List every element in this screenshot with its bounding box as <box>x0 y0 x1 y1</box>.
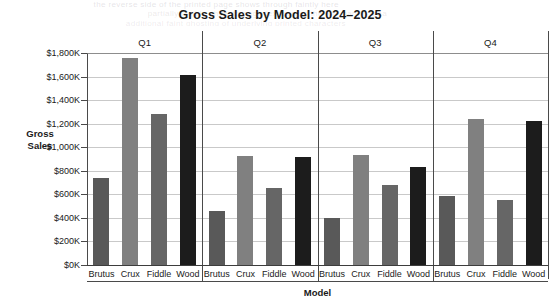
x-tick-label-wood: Wood <box>289 266 318 281</box>
x-tick-label-crux: Crux <box>116 266 145 281</box>
quarter-header-q2: Q2 <box>202 31 317 53</box>
y-tick-label: $1,400K <box>0 96 80 105</box>
y-tick-label: $600K <box>0 190 80 199</box>
bar-q2-brutus[interactable] <box>209 211 225 265</box>
y-tick-label: $400K <box>0 213 80 222</box>
bar-chart: Gross Sales by Model: 2024–2025 Gross Sa… <box>0 0 560 304</box>
quarter-header-q3: Q3 <box>318 31 433 53</box>
x-tick-label-wood: Wood <box>519 266 548 281</box>
x-tick-label-brutus: Brutus <box>433 266 462 281</box>
bar-q3-wood[interactable] <box>410 167 426 265</box>
x-tick-label-brutus: Brutus <box>202 266 231 281</box>
category-group-q2: BrutusCruxFiddleWood <box>202 266 317 281</box>
bar-q2-crux[interactable] <box>237 156 253 265</box>
bar-q3-brutus[interactable] <box>324 218 340 265</box>
y-tick-label: $1,600K <box>0 72 80 81</box>
category-group-q3: BrutusCruxFiddleWood <box>318 266 433 281</box>
x-tick-label-brutus: Brutus <box>87 266 116 281</box>
x-axis-title: Model <box>87 287 548 298</box>
bar-q2-fiddle[interactable] <box>266 188 282 265</box>
quarter-header-q4: Q4 <box>433 31 548 53</box>
category-group-q1: BrutusCruxFiddleWood <box>87 266 202 281</box>
x-tick-label-brutus: Brutus <box>318 266 347 281</box>
y-tick-label: $0K <box>0 261 80 270</box>
bar-q4-wood[interactable] <box>526 121 542 265</box>
bar-q1-brutus[interactable] <box>93 178 109 265</box>
x-tick-label-crux: Crux <box>462 266 491 281</box>
x-tick-label-fiddle: Fiddle <box>375 266 404 281</box>
y-tick-label: $200K <box>0 237 80 246</box>
bar-q4-crux[interactable] <box>468 119 484 265</box>
bar-q4-fiddle[interactable] <box>497 200 513 265</box>
x-tick-label-fiddle: Fiddle <box>145 266 174 281</box>
bar-q4-brutus[interactable] <box>439 196 455 265</box>
plot-right-border <box>548 31 549 279</box>
quarter-header-band: Q1Q2Q3Q4 <box>87 31 548 53</box>
bar-q3-fiddle[interactable] <box>382 185 398 265</box>
chart-title: Gross Sales by Model: 2024–2025 <box>0 8 560 22</box>
x-tick-label-fiddle: Fiddle <box>260 266 289 281</box>
bar-q2-wood[interactable] <box>295 157 311 265</box>
category-group-q4: BrutusCruxFiddleWood <box>433 266 548 281</box>
x-tick-label-crux: Crux <box>346 266 375 281</box>
x-tick-label-fiddle: Fiddle <box>490 266 519 281</box>
y-tick-label: $1,800K <box>0 49 80 58</box>
y-axis-tick-labels: $0K$200K$400K$600K$800K$1,000K$1,200K$1,… <box>0 53 80 265</box>
bar-q1-wood[interactable] <box>180 75 196 265</box>
x-tick-label-wood: Wood <box>173 266 202 281</box>
y-tick-label: $1,000K <box>0 143 80 152</box>
category-label-band: BrutusCruxFiddleWoodBrutusCruxFiddleWood… <box>87 266 548 281</box>
x-tick-label-crux: Crux <box>231 266 260 281</box>
bar-series-layer <box>87 53 548 265</box>
bar-q1-fiddle[interactable] <box>151 114 167 265</box>
quarter-header-q1: Q1 <box>87 31 202 53</box>
x-tick-label-wood: Wood <box>404 266 433 281</box>
bar-q3-crux[interactable] <box>353 155 369 265</box>
y-tick-label: $800K <box>0 166 80 175</box>
category-band-bottom-border <box>87 281 548 282</box>
bar-q1-crux[interactable] <box>122 58 138 265</box>
y-tick-label: $1,200K <box>0 119 80 128</box>
